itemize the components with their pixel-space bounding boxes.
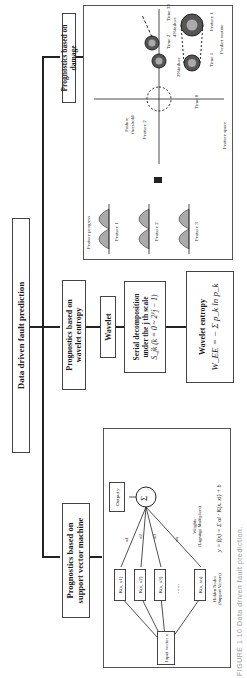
connector	[30, 327, 42, 329]
hidden-nodes-label: Hidden Nodes (Support Vectors)	[212, 573, 223, 605]
connector	[86, 327, 100, 329]
wavelet-branch-node: Prognostics based on wavelet entropy	[62, 280, 86, 390]
connector	[76, 57, 83, 59]
serial-decomposition-node: Serial decomposition under the j th scal…	[124, 281, 166, 373]
feature-progress-label: Feature progress	[86, 216, 91, 249]
connector	[42, 57, 60, 59]
kernel-ellipsis: ......	[174, 584, 180, 593]
root-label: Data driven fault prediction	[16, 282, 26, 390]
arrow-icon	[154, 177, 162, 183]
failure-2-label: 2%failure	[176, 57, 181, 77]
root-node: Data driven fault prediction	[12, 218, 30, 453]
connector	[90, 557, 102, 559]
connector	[166, 327, 186, 329]
weight-label: α3	[152, 534, 157, 539]
weight-label: α2	[138, 534, 143, 539]
damage-branch-node: Prognostics based on damage	[62, 13, 76, 103]
feature-label: Feature 2	[154, 222, 159, 241]
feature-space-label: Feature space	[222, 122, 227, 149]
axis-feature2-label: Feature 2	[142, 120, 147, 139]
time-label: Time 2	[166, 35, 171, 49]
wavelet-node: Wavelet	[100, 296, 116, 358]
kernel-node: K(x, x3)	[154, 569, 166, 601]
time-label: Time 33	[166, 4, 171, 21]
damage-panel: Feature progress Feature 1 Feature 2 Fea…	[83, 5, 233, 260]
weight-label: αn	[174, 537, 179, 542]
kernel-node: K(x, x2)	[134, 569, 146, 601]
kernel-node: K(x, x1)	[114, 569, 126, 601]
kernel-node: K(x, xn)	[194, 569, 206, 601]
connector	[42, 557, 60, 559]
connector	[42, 327, 60, 329]
svm-formula: y = f(x) = Σ αi · K(x, xi) + b	[216, 484, 222, 552]
time-label: Time 1	[209, 53, 214, 67]
connector	[116, 327, 124, 329]
diagram-canvas: Data driven fault prediction Prognostics…	[0, 0, 247, 678]
weights-label: Weights (Lagrange Multipliers)	[192, 506, 203, 547]
weight-label: α1	[124, 537, 129, 542]
svm-output-node: Output y	[109, 482, 125, 512]
feature-label: Feature 1	[114, 222, 119, 241]
connector	[42, 58, 44, 558]
svm-label-2: support vector machine	[76, 518, 86, 604]
damage-svg	[84, 4, 234, 259]
failure-4-label: 4%failure	[172, 17, 177, 37]
svm-panel: Input vector x K(x, x1) K(x, x2) K(x, x3…	[103, 428, 231, 668]
feature-label: Feature 3	[194, 222, 199, 241]
sum-symbol: Σ	[139, 496, 149, 501]
failure-threshold-label: Failure threshold	[124, 115, 135, 134]
figure-caption: FIGURE 1.10 Data driven fault prediction…	[236, 526, 243, 676]
axis-feature1-label: Feature 1	[209, 12, 214, 31]
svm-input-node: Input vector x	[157, 631, 175, 665]
wavelet-entropy-node: Wavelet entropy W_EE = − Σ p_k ln p_k	[186, 271, 234, 383]
svm-branch-node: Prognostics based on support vector mach…	[62, 503, 90, 618]
predict-routine-label: Predict routine	[219, 24, 224, 54]
time-label: Time 0	[194, 95, 199, 109]
